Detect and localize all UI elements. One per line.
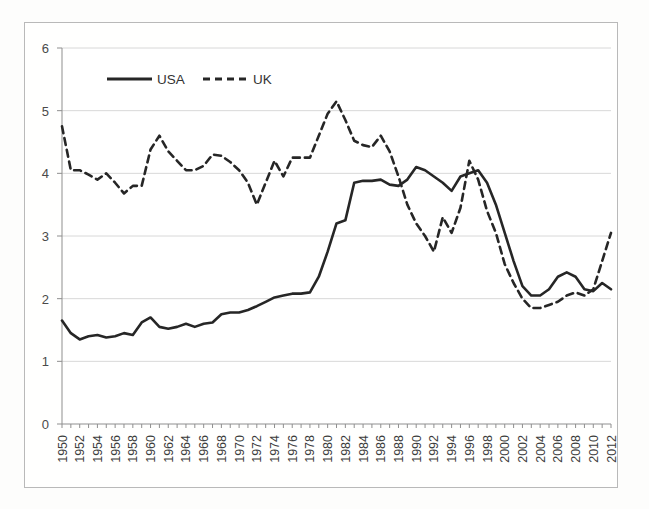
y-tick-label: 4 [42, 166, 49, 181]
x-tick-label: 1988 [392, 435, 406, 463]
y-tick-labels: 0123456 [42, 41, 49, 432]
x-tick-label: 1968 [215, 435, 229, 463]
x-tick-label: 2002 [516, 435, 530, 463]
x-tick-label: 1966 [197, 435, 211, 463]
x-tick-label: 1984 [357, 435, 371, 463]
x-tick-label: 1982 [339, 435, 353, 463]
x-tick-label: 1950 [56, 435, 70, 463]
legend-label-uk: UK [253, 72, 272, 87]
x-tick-label: 1998 [481, 435, 495, 463]
y-tick-marks [57, 48, 62, 424]
y-tick-label: 0 [42, 417, 49, 432]
x-tick-label: 1958 [126, 435, 140, 463]
x-tick-label: 1990 [410, 435, 424, 463]
x-tick-label: 1964 [179, 435, 193, 463]
y-tick-label: 3 [42, 229, 49, 244]
legend-label-usa: USA [157, 72, 185, 87]
x-tick-label: 2010 [587, 435, 601, 463]
x-tick-label: 1952 [73, 435, 87, 463]
x-tick-label: 1976 [286, 435, 300, 463]
x-tick-label: 1960 [144, 435, 158, 463]
y-tick-label: 5 [42, 104, 49, 119]
x-tick-label: 1962 [162, 435, 176, 463]
x-tick-label: 1980 [321, 435, 335, 463]
x-tick-label: 2008 [569, 435, 583, 463]
x-tick-label: 1972 [250, 435, 264, 463]
line-chart: 0123456 19501952195419561958196019621964… [0, 0, 649, 509]
y-tick-label: 6 [42, 41, 49, 56]
x-tick-label: 1992 [427, 435, 441, 463]
x-tick-marks [62, 424, 611, 428]
x-tick-label: 2004 [534, 435, 548, 463]
x-tick-label: 1986 [374, 435, 388, 463]
x-tick-label: 1978 [303, 435, 317, 463]
x-tick-label: 1970 [233, 435, 247, 463]
y-tick-label: 2 [42, 292, 49, 307]
x-tick-label: 2000 [498, 435, 512, 463]
x-tick-label: 2012 [605, 435, 619, 463]
y-tick-label: 1 [42, 354, 49, 369]
x-tick-label: 1954 [91, 435, 105, 463]
x-tick-label: 1996 [463, 435, 477, 463]
x-tick-label: 1956 [109, 435, 123, 463]
x-tick-label: 1994 [445, 435, 459, 463]
x-tick-label: 1974 [268, 435, 282, 463]
chart-screenshot: 0123456 19501952195419561958196019621964… [0, 0, 649, 509]
x-tick-labels: 1950195219541956195819601962196419661968… [56, 435, 619, 463]
x-tick-label: 2006 [551, 435, 565, 463]
